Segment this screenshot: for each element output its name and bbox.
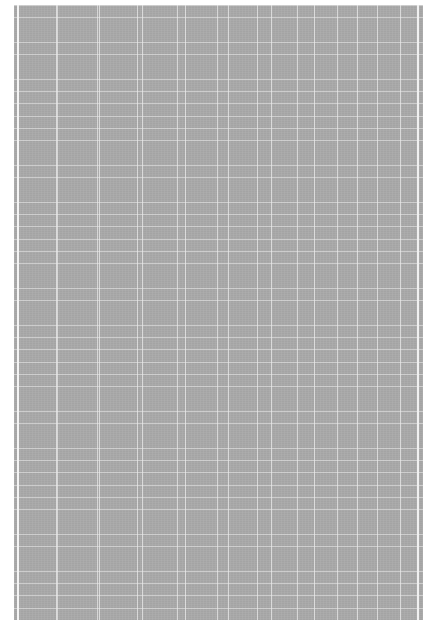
document-page	[14, 5, 423, 620]
column-rule	[137, 5, 138, 620]
column-rule	[57, 5, 58, 620]
column-rule	[337, 5, 338, 620]
column-rule	[177, 5, 178, 620]
column-rule	[377, 5, 378, 620]
page-right-border	[417, 5, 419, 620]
column-rule	[257, 5, 258, 620]
column-rule	[297, 5, 298, 620]
page-left-border	[17, 5, 19, 620]
grid-lines	[14, 5, 423, 620]
column-rule	[217, 5, 218, 620]
column-rule	[97, 5, 98, 620]
